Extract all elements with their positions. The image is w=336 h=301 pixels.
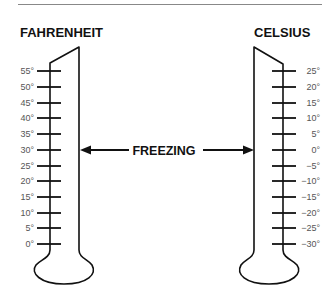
svg-text:10°: 10° xyxy=(20,208,34,218)
celsius-ticks xyxy=(272,71,296,244)
svg-text:0°: 0° xyxy=(311,145,320,155)
svg-text:0°: 0° xyxy=(25,239,34,249)
svg-text:10°: 10° xyxy=(306,113,320,123)
celsius-labels: 25° 20° 15° 10° 5° 0° −5° −10° −15° −20°… xyxy=(301,66,320,249)
freezing-label: FREEZING xyxy=(132,144,195,158)
svg-text:−5°: −5° xyxy=(306,161,320,171)
celsius-title: CELSIUS xyxy=(254,25,311,40)
svg-text:20°: 20° xyxy=(20,176,34,186)
svg-text:55°: 55° xyxy=(20,66,34,76)
svg-text:20°: 20° xyxy=(306,82,320,92)
fahrenheit-ticks xyxy=(37,71,61,244)
fahrenheit-title: FAHRENHEIT xyxy=(20,25,103,40)
fahrenheit-labels: 55° 50° 45° 40° 35° 30° 25° 20° 15° 10° … xyxy=(20,66,34,249)
svg-text:15°: 15° xyxy=(20,192,34,202)
svg-text:−30°: −30° xyxy=(301,239,320,249)
thermometer-diagram: FAHRENHEIT CELSIUS 55° 50° 45° 40° 35° 3… xyxy=(0,0,336,301)
svg-text:−20°: −20° xyxy=(301,208,320,218)
svg-text:35°: 35° xyxy=(20,129,34,139)
svg-text:50°: 50° xyxy=(20,82,34,92)
left-arrow-icon xyxy=(80,146,129,155)
svg-text:−25°: −25° xyxy=(301,223,320,233)
svg-text:5°: 5° xyxy=(311,129,320,139)
svg-text:30°: 30° xyxy=(20,145,34,155)
svg-text:−15°: −15° xyxy=(301,192,320,202)
svg-text:25°: 25° xyxy=(306,66,320,76)
svg-text:40°: 40° xyxy=(20,113,34,123)
svg-text:25°: 25° xyxy=(20,161,34,171)
svg-text:15°: 15° xyxy=(306,98,320,108)
svg-text:−10°: −10° xyxy=(301,176,320,186)
right-arrow-icon xyxy=(203,146,254,155)
svg-text:5°: 5° xyxy=(25,223,34,233)
svg-text:45°: 45° xyxy=(20,98,34,108)
